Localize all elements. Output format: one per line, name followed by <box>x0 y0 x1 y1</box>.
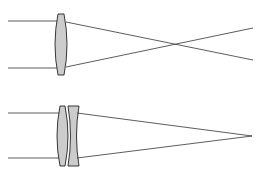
refracted-ray-top <box>77 113 252 136</box>
single-lens-panel <box>8 14 253 75</box>
refracted-ray-top <box>66 22 253 60</box>
doublet-lens-panel <box>8 106 252 166</box>
biconvex-lens <box>55 14 67 75</box>
convex-lens-element <box>57 106 68 166</box>
refracted-ray-bottom <box>66 28 253 67</box>
lens-diagram <box>0 0 258 169</box>
refracted-ray-bottom <box>77 136 252 158</box>
concave-lens-element <box>68 106 79 166</box>
